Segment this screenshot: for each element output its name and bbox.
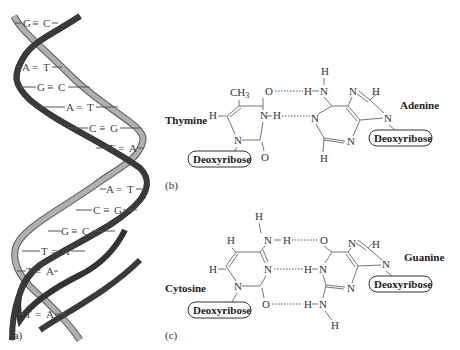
atom-o6: O <box>320 234 328 246</box>
atom-n4: N <box>264 234 272 246</box>
bond-symbol: = <box>118 142 124 154</box>
sugar-label: Deoxyribose <box>374 278 432 290</box>
atom-n3: N <box>347 135 355 147</box>
panel-label-c: (c) <box>165 329 178 342</box>
atom-n3: N <box>347 282 355 294</box>
base-right: T <box>87 101 94 113</box>
bond-symbol: = <box>35 308 41 320</box>
atom-h: H <box>304 298 312 310</box>
base-right: C <box>43 17 50 29</box>
atom-h6: H <box>209 263 217 275</box>
base-left: C <box>89 122 96 134</box>
thymine-label: Thymine <box>165 114 207 126</box>
atom-n7: N <box>349 85 357 97</box>
bond-symbol: = <box>51 245 57 257</box>
atom-h: H <box>331 319 339 331</box>
atom-h2: H <box>320 152 328 164</box>
base-right: A <box>62 245 70 257</box>
cytosine-structure: H H N H H N N O <box>209 210 318 310</box>
base-right: C <box>82 225 89 237</box>
bond-symbol: ≡ <box>71 225 77 237</box>
atom-n3: N <box>264 263 272 275</box>
atom-h: H <box>304 85 312 97</box>
base-right: G <box>114 204 122 216</box>
atom-n6: N <box>320 85 328 97</box>
atom-n2: N <box>319 298 327 310</box>
deoxyribose-adenine: Deoxyribose <box>369 130 432 146</box>
atom-ch3: CH3 <box>230 86 249 100</box>
bond-symbol: = <box>35 265 41 277</box>
bond-symbol: ≡ <box>32 17 38 29</box>
base-right: T <box>43 61 50 73</box>
base-left: T <box>25 308 32 320</box>
base-left: T <box>41 245 48 257</box>
atom-n9: N <box>382 258 390 270</box>
bond-symbol: = <box>116 183 122 195</box>
thymine-adenine-pair: CH3 O N H H N O H H N <box>165 65 439 167</box>
base-right: A <box>46 265 54 277</box>
atom-n7: N <box>348 237 356 249</box>
atom-h: H <box>283 234 291 246</box>
base-left: C <box>93 204 100 216</box>
bond-symbol: = <box>32 61 38 73</box>
double-helix: G ≡ C A = T G ≡ C A = T C <box>12 16 147 340</box>
base-pair-row: A = T <box>100 183 144 195</box>
base-right: A <box>46 308 54 320</box>
base-right: T <box>127 183 134 195</box>
deoxyribose-guanine: Deoxyribose <box>369 276 432 292</box>
atom-n1: N <box>234 280 242 292</box>
atom-o2: O <box>261 151 269 163</box>
bond-symbol: ≡ <box>103 204 109 216</box>
guanine-label: Guanine <box>404 251 444 263</box>
cytosine-label: Cytosine <box>165 282 206 294</box>
atom-o2: O <box>262 298 270 310</box>
base-left: A <box>22 61 30 73</box>
base-left: G <box>37 81 45 93</box>
sugar-label: Deoxyribose <box>193 153 251 165</box>
deoxyribose-cytosine: Deoxyribose <box>188 302 251 318</box>
base-right: C <box>58 81 65 93</box>
bond-symbol: ≡ <box>99 122 105 134</box>
atom-h: H <box>255 210 263 222</box>
base-right: G <box>110 122 118 134</box>
atom-n1: N <box>319 263 327 275</box>
base-left: G <box>61 225 69 237</box>
adenine-structure: H H N N N H N N H <box>304 65 395 164</box>
base-left: A <box>106 183 114 195</box>
atom-o: O <box>265 85 273 97</box>
atom-h8: H <box>372 238 380 250</box>
atom-h: H <box>273 109 281 121</box>
deoxyribose-thymine: Deoxyribose <box>188 151 251 167</box>
base-left: A <box>66 101 74 113</box>
atom-n1: N <box>311 112 319 124</box>
panel-label-a: (a) <box>10 329 23 342</box>
atom-h: H <box>209 109 217 121</box>
base-left: G <box>23 17 31 29</box>
atom-h1: H <box>304 263 312 275</box>
atom-h: H <box>321 65 329 77</box>
sugar-label: Deoxyribose <box>193 304 251 316</box>
base-left: T <box>26 265 33 277</box>
base-left: T <box>108 142 115 154</box>
panel-label-b: (b) <box>165 179 178 192</box>
atom-h5: H <box>227 234 235 246</box>
atom-n1: N <box>234 134 242 146</box>
base-right: A <box>129 142 137 154</box>
adenine-label: Adenine <box>400 99 439 111</box>
atom-n: N <box>260 109 268 121</box>
sugar-label: Deoxyribose <box>374 132 432 144</box>
cytosine-guanine-pair: H H N H H N N O <box>165 210 444 331</box>
bond-symbol: ≡ <box>47 81 53 93</box>
bond-symbol: = <box>76 101 82 113</box>
dna-figure: G ≡ C A = T G ≡ C A = T C <box>0 0 460 350</box>
atom-n9: N <box>384 112 392 124</box>
